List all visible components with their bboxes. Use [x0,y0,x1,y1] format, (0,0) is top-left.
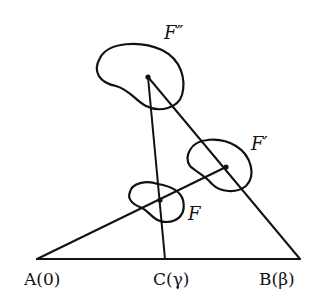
figure-f-double-prime-outline [97,44,184,109]
label-f-double-prime: F″ [163,22,183,43]
figure-f-center [157,197,162,202]
figure-f-outline [129,182,184,222]
label-f-prime: F′ [250,133,268,154]
label-point-c: C(γ) [153,269,189,289]
figure-f-prime-outline [187,140,251,191]
geometry-diagram: F″ F′ F A(0) C(γ) B(β) [0,0,330,308]
line-f-double-prime-to-c [148,77,165,259]
figure-f-prime-center [223,164,228,169]
label-point-b: B(β) [259,269,295,289]
label-point-a: A(0) [23,269,60,289]
figure-f-double-prime-center [145,74,150,79]
label-f: F [187,203,202,224]
